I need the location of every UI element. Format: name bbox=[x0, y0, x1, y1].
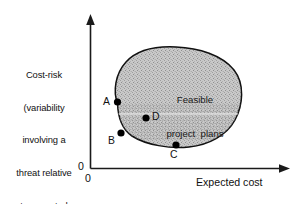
feasible-region-label: Feasible project plans bbox=[152, 72, 238, 161]
data-point-d[interactable] bbox=[142, 114, 149, 121]
y-axis-arrow bbox=[86, 14, 95, 25]
origin-label-x: 0 bbox=[85, 172, 91, 184]
y-axis-label-line-5: to expected bbox=[2, 201, 86, 204]
data-point-label-a: A bbox=[103, 96, 110, 108]
origin-label-y: 0 bbox=[78, 160, 84, 172]
data-point-label-d: D bbox=[152, 111, 160, 123]
y-axis-label-line-1: Cost-risk bbox=[2, 70, 86, 81]
x-axis-label: Expected cost bbox=[196, 176, 263, 188]
x-axis-arrow bbox=[279, 164, 290, 173]
feasible-region-label-line-2: project plans bbox=[152, 128, 238, 139]
y-axis-label-line-2: (variability bbox=[2, 103, 86, 114]
data-point-label-c: C bbox=[170, 149, 178, 161]
y-axis-label-line-4: threat relative bbox=[2, 168, 86, 179]
data-point-label-b: B bbox=[108, 135, 115, 147]
feasible-region-label-line-1: Feasible bbox=[152, 94, 238, 105]
y-axis bbox=[86, 14, 95, 169]
y-axis-label: Cost-risk (variability involving a threa… bbox=[2, 48, 86, 204]
figure-container: Cost-risk (variability involving a threa… bbox=[0, 0, 307, 204]
x-axis bbox=[91, 164, 291, 173]
data-point-b[interactable] bbox=[117, 129, 124, 136]
y-axis-label-line-3: involving a bbox=[2, 135, 86, 146]
data-point-a[interactable] bbox=[114, 98, 121, 105]
